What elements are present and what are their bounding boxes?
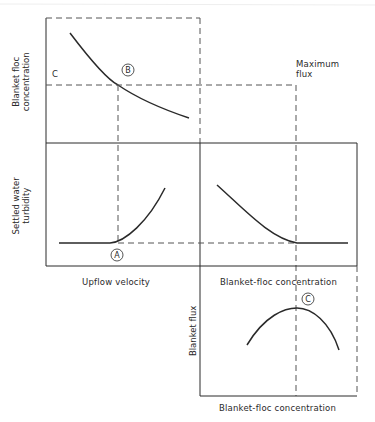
bottom-right-x-label: Blanket-floc concentration bbox=[219, 404, 336, 414]
c-value-label: C bbox=[52, 70, 58, 80]
y-label-line-2: turbidity bbox=[22, 174, 32, 238]
marker-c-label: C bbox=[305, 295, 311, 304]
middle-left-y-label: Settled water turbidity bbox=[12, 174, 32, 238]
turbidity-vs-concentration-curve bbox=[217, 185, 348, 243]
scan-artifact bbox=[0, 4, 375, 5]
top-left-y-label: Blanket floc concentration bbox=[12, 52, 32, 112]
y-label-line-2: concentration bbox=[22, 52, 32, 112]
middle-row-panels: A bbox=[46, 143, 357, 396]
blanket-flux-curve bbox=[247, 308, 339, 350]
upflow-velocity-label: Upflow velocity bbox=[82, 278, 150, 288]
max-flux-line-2: flux bbox=[296, 70, 339, 80]
marker-a-label: A bbox=[114, 251, 120, 260]
top-left-panel: B bbox=[46, 18, 200, 143]
max-flux-annotation: Maximum flux bbox=[296, 60, 339, 80]
middle-right-x-label: Blanket-floc concentration bbox=[220, 278, 337, 288]
marker-b-label: B bbox=[125, 66, 131, 75]
blanket-flux-y-label: Blanket flux bbox=[189, 301, 199, 361]
turbidity-curve bbox=[59, 188, 165, 243]
